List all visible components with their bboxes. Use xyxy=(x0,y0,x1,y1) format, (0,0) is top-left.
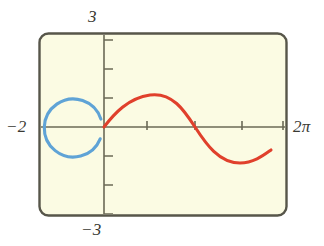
figure-root: 3 −3 −2 2π xyxy=(0,0,324,246)
screen-texture xyxy=(41,35,285,214)
plot-svg xyxy=(0,0,324,246)
y-max-label: 3 xyxy=(88,8,97,25)
y-min-label: −3 xyxy=(81,221,101,238)
x-min-label: −2 xyxy=(6,118,26,135)
x-max-label: 2π xyxy=(293,118,310,135)
